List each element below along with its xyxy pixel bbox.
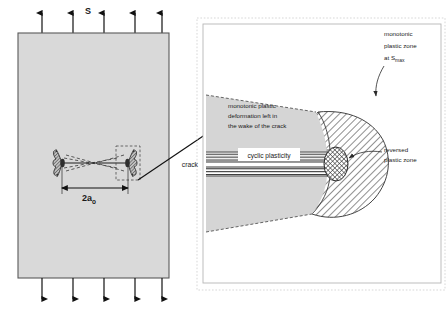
cyclic-plasticity-label: cyclic plasticity: [247, 152, 291, 160]
bottom-load-arrows: [42, 278, 162, 299]
wake-label-line1: monotonic plastic: [228, 102, 276, 109]
reversed-zone-label-line2: plastic zone: [384, 156, 417, 163]
crack-opening: [206, 162, 326, 167]
wake-label-line2: deformation left in: [228, 112, 278, 119]
crack-label: crack: [182, 161, 199, 168]
fracture-mechanics-diagram: S: [0, 0, 448, 318]
left-panel-cracked-plate: S: [18, 6, 169, 299]
wake-label-line3: the wake of the crack: [228, 122, 287, 129]
reversed-plastic-zone: [324, 147, 348, 181]
top-load-arrows: [42, 13, 162, 33]
reversed-zone-label-line1: reversed: [384, 146, 409, 153]
remote-stress-label: S: [85, 6, 91, 16]
monotonic-zone-label-line2: plastic zone: [384, 42, 417, 49]
monotonic-zone-label-line1: monotonic: [384, 30, 413, 37]
right-panel-crack-tip-detail: monotonic plastic zone at Smax monotonic…: [182, 18, 445, 290]
plate-body: [18, 33, 169, 278]
figure-root: S: [0, 0, 448, 318]
